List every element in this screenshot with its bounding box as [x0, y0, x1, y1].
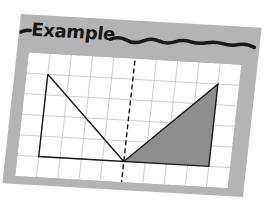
example-card: Example: [2, 14, 261, 197]
title-banner: Example: [18, 14, 262, 58]
grid-figure: [15, 53, 241, 189]
